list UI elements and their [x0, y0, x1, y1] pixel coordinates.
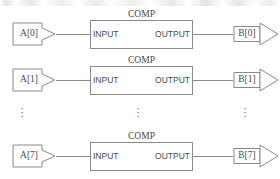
- source-terminal-a7[interactable]: A[7]: [12, 144, 56, 168]
- wire-output: [193, 34, 233, 35]
- vertical-ellipsis-dest: ···: [240, 106, 250, 118]
- comp-row: A[7] COMP INPUT OUTPUT B[7]: [0, 134, 280, 179]
- source-terminal-a0[interactable]: A[0]: [12, 22, 56, 46]
- comp-row: A[0] COMP INPUT OUTPUT B[0]: [0, 12, 280, 58]
- comp-block[interactable]: [90, 20, 193, 49]
- dest-terminal-b1[interactable]: B[1]: [233, 68, 279, 92]
- comp-row: A[1] COMP INPUT OUTPUT B[1]: [0, 58, 280, 104]
- dest-label: B[1]: [234, 68, 260, 92]
- wire-input: [56, 34, 90, 35]
- comp-array-diagram: A[0] COMP INPUT OUTPUT B[0] A[1] COMP: [0, 0, 280, 179]
- vertical-ellipsis-source: ···: [17, 106, 27, 118]
- source-label: A[7]: [16, 144, 42, 168]
- ellipsis-row: ··· ··· ···: [0, 106, 280, 128]
- comp-block[interactable]: [90, 142, 193, 171]
- dest-terminal-b0[interactable]: B[0]: [233, 22, 279, 46]
- comp-block[interactable]: [90, 66, 193, 95]
- source-label: A[0]: [16, 22, 42, 46]
- vertical-ellipsis-block: ···: [133, 106, 143, 118]
- source-terminal-a1[interactable]: A[1]: [12, 68, 56, 92]
- dest-label: B[7]: [234, 144, 260, 168]
- block-title: COMP: [90, 130, 193, 142]
- dest-terminal-b7[interactable]: B[7]: [233, 144, 279, 168]
- wire-input: [56, 80, 90, 81]
- wire-input: [56, 156, 90, 157]
- block-title: COMP: [90, 8, 193, 20]
- block-title: COMP: [90, 54, 193, 66]
- wire-output: [193, 156, 233, 157]
- dest-label: B[0]: [234, 22, 260, 46]
- source-label: A[1]: [16, 68, 42, 92]
- wire-output: [193, 80, 233, 81]
- scan-artifact: [0, 0, 280, 6]
